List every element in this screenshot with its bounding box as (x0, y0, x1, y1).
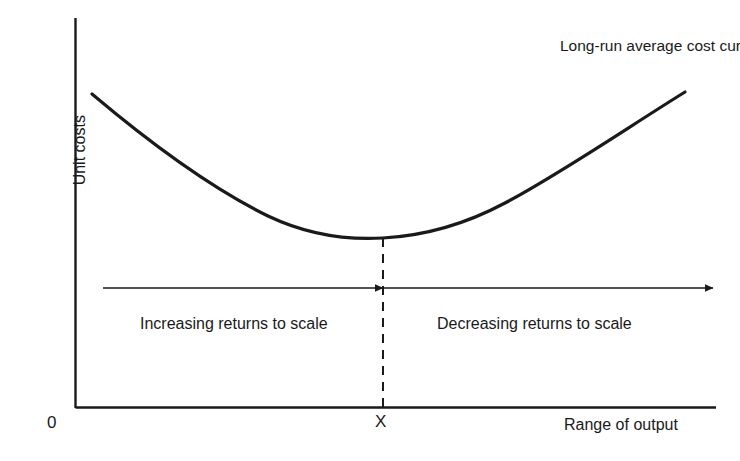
figure-canvas (0, 0, 740, 461)
x-axis-title: Range of output (564, 415, 678, 435)
curve-annotation-label: Long-run average cost curve (560, 36, 664, 56)
increasing-returns-label: Increasing returns to scale (140, 314, 328, 334)
y-axis-title: Unit costs (70, 80, 90, 220)
decreasing-returns-label: Decreasing returns to scale (437, 314, 632, 334)
x-axis-tick-label-x: X (375, 411, 386, 433)
axis-origin-label: 0 (47, 412, 56, 434)
lrac-cost-curve-figure: Unit costs 0 X Range of output Long-run … (0, 0, 740, 461)
long-run-average-cost-curve (92, 92, 685, 238)
